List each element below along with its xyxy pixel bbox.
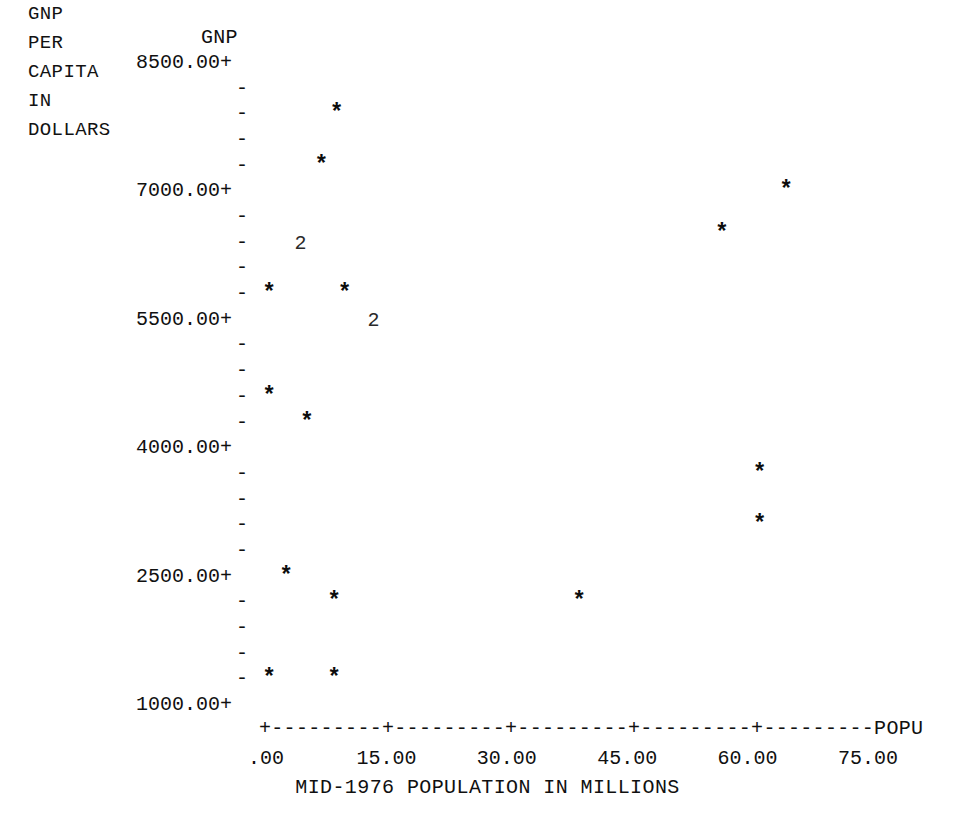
data-point-marker: *	[262, 668, 276, 691]
data-point-marker: *	[262, 385, 276, 408]
x-axis-tick-label: 30.00	[477, 749, 537, 769]
x-axis-tick-label: 45.00	[597, 749, 657, 769]
data-point-overlap-count: 2	[294, 231, 306, 254]
x-axis-tick-label: 75.00	[838, 749, 898, 769]
scatterplot-figure: GNP GNP PER CAPITA IN DOLLARS 8500.00+--…	[0, 0, 975, 821]
data-point-marker: *	[715, 223, 729, 246]
data-point-overlap-count: 2	[368, 308, 380, 331]
x-axis-caption: MID-1976 POPULATION IN MILLIONS	[0, 778, 975, 798]
x-axis-tick-labels: .0015.0030.0045.0060.0075.00	[0, 749, 975, 773]
data-point-marker: *	[262, 283, 276, 306]
x-axis-tick-label: 60.00	[718, 749, 778, 769]
data-point-marker: *	[314, 154, 328, 177]
data-point-marker: *	[779, 180, 793, 203]
data-point-marker: *	[279, 565, 293, 588]
x-axis-caption-text: MID-1976 POPULATION IN MILLIONS	[295, 776, 679, 799]
x-axis-line: +---------+---------+---------+---------…	[259, 719, 923, 739]
x-axis-tick-label: .00	[248, 749, 284, 769]
data-point-marker: *	[327, 668, 341, 691]
data-point-marker: *	[753, 462, 767, 485]
data-point-marker: *	[330, 103, 344, 126]
data-point-marker: *	[300, 411, 314, 434]
data-point-marker: *	[753, 514, 767, 537]
data-point-marker: *	[327, 591, 341, 614]
data-point-layer: ****2**2*********	[0, 0, 975, 821]
x-axis-tick-label: 15.00	[356, 749, 416, 769]
data-point-marker: *	[572, 591, 586, 614]
data-point-marker: *	[338, 283, 352, 306]
